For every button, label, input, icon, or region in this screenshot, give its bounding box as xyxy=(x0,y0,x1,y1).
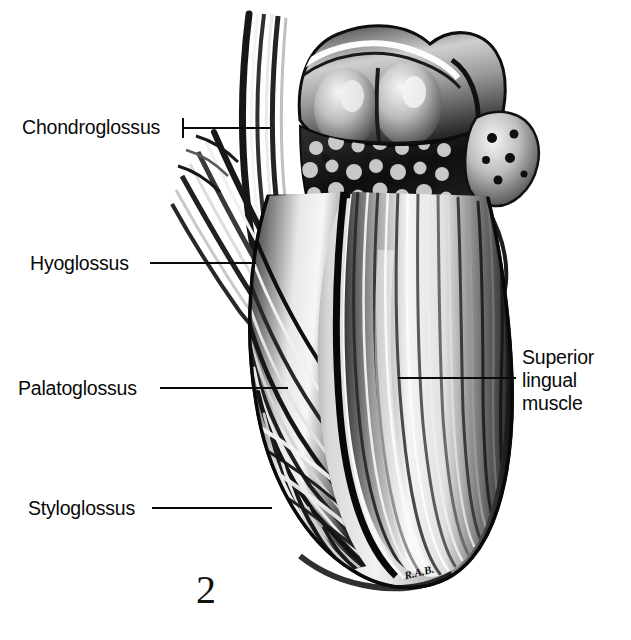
leader-line-superior-lingual-muscle xyxy=(398,377,516,379)
tongue-anatomy-illustration xyxy=(0,0,631,640)
label-text-hyoglossus: Hyoglossus xyxy=(30,252,129,275)
label-text-styloglossus: Styloglossus xyxy=(28,497,135,520)
tongue-body xyxy=(240,180,520,592)
leader-line-hyoglossus xyxy=(150,262,256,264)
figure-canvas: Chondroglossus Hyoglossus Palatoglossus … xyxy=(0,0,631,640)
leader-line-chondroglossus xyxy=(182,127,270,129)
label-text-superior-line3: muscle xyxy=(522,392,583,415)
label-text-palatoglossus: Palatoglossus xyxy=(18,377,137,400)
leader-line-styloglossus xyxy=(152,507,272,509)
label-text-superior-line2: lingual xyxy=(522,369,577,392)
label-text-chondroglossus: Chondroglossus xyxy=(22,116,160,139)
leader-line-palatoglossus xyxy=(160,387,288,389)
label-text-superior-line1: Superior xyxy=(522,346,594,369)
figure-number: 2 xyxy=(196,566,216,613)
